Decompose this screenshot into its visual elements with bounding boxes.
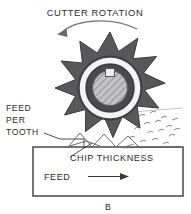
cutter-rotation-label: CUTTER ROTATION (47, 7, 144, 18)
keyway-square-icon (106, 69, 115, 77)
feed-per-tooth-label-line2: PER (6, 115, 25, 125)
feed-per-tooth-label-line1: FEED (6, 103, 31, 113)
diagram-canvas: CUTTER ROTATION (0, 0, 191, 214)
figure-milling-cutter-diagram: CUTTER ROTATION (0, 0, 191, 214)
chip-thickness-label: CHIP THICKNESS (70, 153, 154, 163)
feed-label: FEED (44, 172, 70, 182)
feed-per-tooth-label-line3: TOOTH (6, 127, 39, 137)
panel-label-b: B (105, 202, 111, 212)
